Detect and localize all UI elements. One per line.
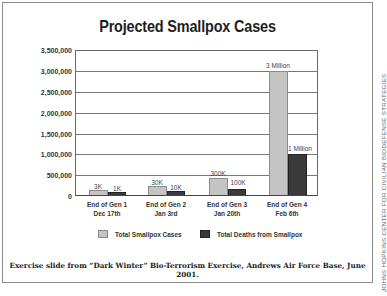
legend-swatch-deaths (200, 230, 210, 238)
bar-deaths-gen2 (167, 191, 185, 195)
chart-title: Projected Smallpox Cases (28, 17, 347, 37)
x-label-line1: End of Gen 3 (197, 200, 257, 209)
x-label-gen1: End of Gen 1 Dec 17th (77, 200, 137, 218)
legend-item-cases: Total Smallpox Cases (98, 230, 182, 238)
x-label-gen3: End of Gen 3 Jan 20th (197, 200, 257, 218)
legend-item-deaths: Total Deaths from Smallpox (200, 230, 302, 238)
y-tick-label: 3,000,000 (2, 68, 72, 75)
legend-label-cases: Total Smallpox Cases (115, 231, 182, 238)
x-label-line1: End of Gen 4 (257, 200, 317, 209)
y-tick-label: 2,500,000 (2, 89, 72, 96)
bar-cases-gen2 (148, 186, 167, 195)
bar-label-cases-gen2: 30K (151, 179, 163, 186)
y-tick-label: 1,500,000 (2, 131, 72, 138)
bar-cases-gen3 (209, 178, 228, 195)
plot-area (75, 50, 318, 196)
y-tick-label: 3,500,000 (2, 47, 72, 54)
y-tick-label: 0 (2, 193, 72, 200)
bar-label-deaths-gen3: 100K (230, 179, 245, 186)
bar-label-cases-gen3: 300K (210, 170, 225, 177)
bar-label-deaths-gen2: 10K (170, 184, 182, 191)
legend-label-deaths: Total Deaths from Smallpox (217, 231, 302, 238)
x-label-line2: Jan 3rd (136, 209, 196, 218)
bar-cases-gen1 (89, 190, 108, 195)
x-label-gen2: End of Gen 2 Jan 3rd (136, 200, 196, 218)
credit-text: JOHNS HOPKINS CENTER FOR CIVILIAN BIODEF… (380, 73, 387, 292)
y-tick-label: 1,000,000 (2, 151, 72, 158)
bar-deaths-gen1 (108, 192, 126, 195)
x-label-gen4: End of Gen 4 Feb 6th (257, 200, 317, 218)
x-label-line2: Feb 6th (257, 209, 317, 218)
x-label-line2: Jan 20th (197, 209, 257, 218)
bar-label-cases-gen1: 3K (94, 183, 102, 190)
y-tick-label: 500,000 (2, 172, 72, 179)
x-label-line1: End of Gen 2 (136, 200, 196, 209)
x-label-line2: Dec 17th (77, 209, 137, 218)
bar-deaths-gen3 (228, 189, 246, 195)
bar-cases-gen4 (269, 71, 288, 195)
caption: Exercise slide from “Dark Winter” Bio-Te… (0, 261, 375, 279)
bar-deaths-gen4 (288, 154, 307, 195)
x-label-line1: End of Gen 1 (77, 200, 137, 209)
legend-swatch-cases (98, 230, 108, 238)
bar-label-deaths-gen1: 1K (113, 185, 121, 192)
bar-label-cases-gen4: 3 Million (266, 62, 290, 69)
y-tick-label: 2,000,000 (2, 110, 72, 117)
bar-label-deaths-gen4: 1 Million (288, 145, 312, 152)
